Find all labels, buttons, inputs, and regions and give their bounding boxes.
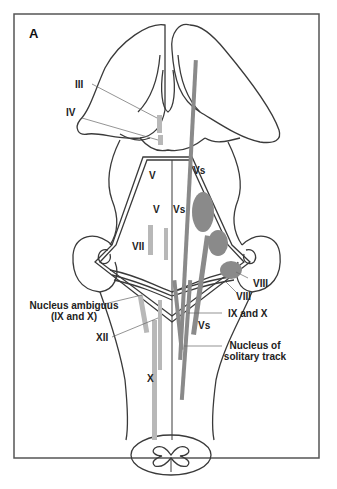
label-solitary-line1: Nucleus of [220, 340, 290, 351]
label-III: III [75, 79, 83, 90]
label-V-upper: V [149, 170, 156, 181]
label-Vs-lower: Vs [198, 320, 210, 331]
label-nucleus-solitary: Nucleus of solitary track [220, 340, 290, 362]
nucleus-Vs-principal [192, 192, 214, 232]
label-VII: VII [132, 241, 144, 252]
right-hemisphere [172, 24, 280, 142]
label-XII: XII [96, 332, 108, 343]
label-Vs-upper: Vs [193, 165, 205, 176]
leader-IV [82, 118, 158, 140]
label-IV: IV [66, 107, 75, 118]
nucleus-XII [158, 300, 162, 370]
panel-label: A [29, 26, 38, 41]
label-solitary-line2: solitary track [220, 351, 290, 362]
label-nucleus-ambiguus: Nucleus ambiguus (IX and X) [28, 300, 120, 322]
label-Vs-mid: Vs [173, 204, 185, 215]
label-VIII-a: VIII [253, 278, 268, 289]
brainstem-diagram [0, 0, 337, 489]
label-nucleus-ambiguus-line2: (IX and X) [28, 311, 120, 322]
nucleus-IV [158, 135, 163, 145]
leader-VIII-b [226, 282, 236, 292]
nucleus-V-motor [148, 225, 153, 255]
nucleus-ambiguus [138, 295, 150, 333]
nucleus-VII [164, 228, 168, 260]
label-X: X [147, 373, 154, 384]
label-IX-and-X: IX and X [228, 308, 267, 319]
brainstem-figure: A III IV V Vs V Vs VII VIII VIII Nucleus… [0, 0, 337, 489]
label-V-mid: V [153, 204, 160, 215]
left-hemisphere [77, 25, 165, 139]
label-VIII-b: VIII [236, 291, 251, 302]
label-nucleus-ambiguus-line1: Nucleus ambiguus [28, 300, 120, 311]
nucleus-III [157, 115, 162, 133]
left-peduncle [109, 140, 120, 245]
nucleus-VIII-b [220, 261, 242, 279]
nucleus-VIII-a [208, 230, 228, 256]
right-peduncle [228, 142, 242, 245]
